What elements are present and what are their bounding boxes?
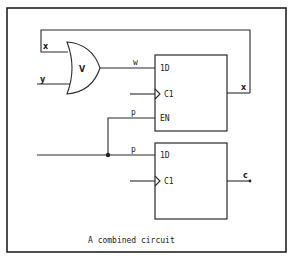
ff-bottom-pin-c1: C1 bbox=[164, 177, 174, 186]
signal-label-w: w bbox=[133, 58, 138, 67]
circuit-diagram: V w 1D C1 EN x x y p p 1D C1 c A combine… bbox=[0, 0, 293, 258]
signal-label-x-in: x bbox=[43, 42, 49, 51]
ff-top-pin-c1: C1 bbox=[164, 90, 174, 99]
diagram-caption: A combined circuit bbox=[88, 236, 175, 245]
signal-label-y-in: y bbox=[40, 75, 46, 84]
junction-dot bbox=[106, 153, 110, 157]
output-terminal-c bbox=[249, 180, 252, 183]
signal-label-p-bottom: p bbox=[131, 145, 136, 154]
signal-label-p-top: p bbox=[131, 108, 136, 117]
or-gate-symbol: V bbox=[79, 65, 86, 74]
signal-label-c-out: c bbox=[243, 171, 248, 180]
signal-label-x-out: x bbox=[241, 83, 247, 92]
ff-top-pin-en: EN bbox=[160, 114, 170, 123]
diagram-frame bbox=[7, 8, 286, 252]
ff-bottom-pin-1d: 1D bbox=[160, 151, 170, 160]
ff-top-pin-1d: 1D bbox=[160, 64, 170, 73]
